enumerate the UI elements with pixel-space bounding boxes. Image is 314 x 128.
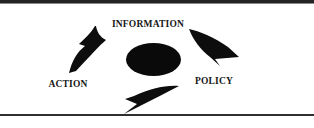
node-label-action: ACTION (48, 79, 87, 89)
bottom-rule-divider (0, 114, 314, 116)
curved-arrow-left-icon (121, 84, 181, 116)
center-ellipse-shape (126, 43, 181, 76)
cycle-diagram: INFORMATION ACTION POLICY (0, 0, 314, 128)
node-label-information: INFORMATION (112, 19, 184, 29)
top-rule-divider (0, 0, 314, 4)
curved-arrow-down-right-icon (187, 27, 241, 67)
curved-arrow-up-icon (66, 25, 108, 75)
node-label-policy: POLICY (195, 76, 233, 86)
